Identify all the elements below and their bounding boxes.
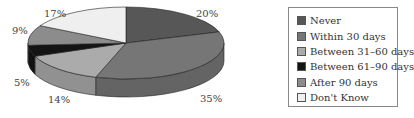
legend-item-dont-know: Don't Know xyxy=(297,90,397,105)
legend-label: Between 61–90 days xyxy=(310,61,414,72)
legend-item-61-90: Between 61–90 days xyxy=(297,59,397,74)
legend-item-31-60: Between 31–60 days xyxy=(297,44,397,59)
label-61-90: 5% xyxy=(14,77,30,88)
legend-item-after-90: After 90 days xyxy=(297,75,397,90)
legend-item-within-30: Within 30 days xyxy=(297,28,397,43)
legend-label: Within 30 days xyxy=(310,31,386,42)
label-never: 20% xyxy=(196,8,218,19)
legend-swatch xyxy=(297,62,306,71)
legend-label: After 90 days xyxy=(310,77,378,88)
legend-swatch xyxy=(297,32,306,41)
label-after-90: 9% xyxy=(12,25,28,36)
legend-label: Don't Know xyxy=(310,92,369,103)
legend-item-never: Never xyxy=(297,13,397,28)
legend-label: Never xyxy=(310,15,341,26)
legend-label: Between 31–60 days xyxy=(310,46,414,57)
legend-swatch xyxy=(297,16,306,25)
legend-swatch xyxy=(297,47,306,56)
chart-legend: Never Within 30 days Between 31–60 days … xyxy=(288,7,398,107)
legend-swatch xyxy=(297,78,306,87)
label-dont-know: 17% xyxy=(44,8,66,19)
label-31-60: 14% xyxy=(48,94,70,105)
legend-swatch xyxy=(297,93,306,102)
label-within-30: 35% xyxy=(200,93,222,104)
